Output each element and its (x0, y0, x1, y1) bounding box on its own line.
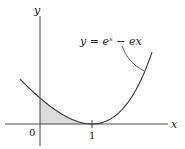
shaded-region (40, 98, 92, 124)
x-axis-label: x (171, 118, 178, 131)
origin-label: 0 (29, 127, 35, 138)
tick-one-label: 1 (89, 130, 95, 141)
function-graph: y x y = eˣ − ex 0 1 (0, 0, 185, 149)
equation-label: y = eˣ − ex (79, 35, 143, 48)
y-axis-label: y (33, 4, 41, 17)
leader-line (122, 46, 144, 71)
